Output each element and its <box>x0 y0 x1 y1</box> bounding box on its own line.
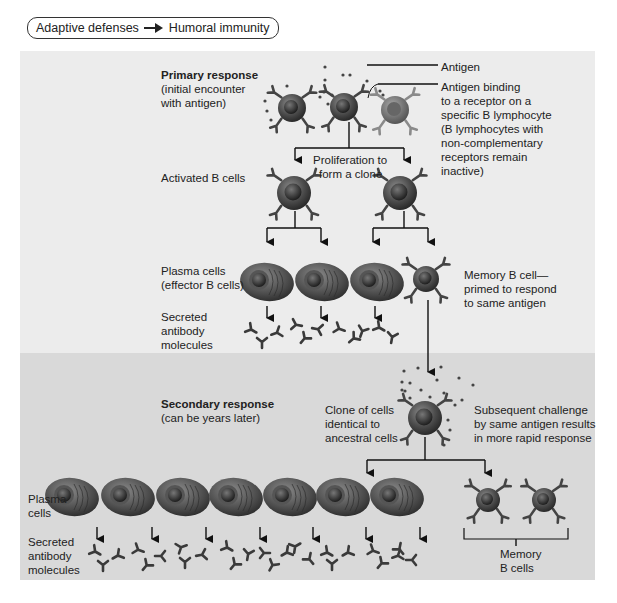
receptor <box>376 203 391 219</box>
binding-label-3: specific B lymphocyte <box>441 108 552 122</box>
receptor <box>351 115 366 131</box>
receptor <box>465 480 481 495</box>
antibody-molecule <box>406 555 416 565</box>
activated-b-cells-label: Activated B cells <box>161 171 245 185</box>
secondary-response-title: Secondary response <box>161 397 274 411</box>
primary-response-title: Primary response <box>161 68 258 82</box>
antibody-molecule <box>303 553 317 567</box>
plasma-cell <box>238 259 297 304</box>
secondary-plasma-label-1: Plasma <box>28 492 66 506</box>
antigen-dot <box>323 78 326 81</box>
receptor <box>524 507 539 523</box>
antigen-dot <box>326 102 329 105</box>
antigen-dot <box>378 89 381 92</box>
antibody-molecule <box>346 332 360 346</box>
receptor <box>270 203 285 219</box>
cell-nucleus <box>336 99 350 113</box>
antigen-dot <box>402 369 405 372</box>
receptor <box>373 118 388 134</box>
antibody-molecule <box>327 560 337 570</box>
antigen-dot <box>457 376 460 379</box>
secondary-plasma-label-2: cells <box>28 506 51 520</box>
antigen-dot <box>446 418 449 421</box>
cell-nucleus <box>419 272 432 285</box>
binding-label-7: inactive) <box>441 164 484 178</box>
antibody-molecule <box>297 332 311 346</box>
antibody-molecule <box>180 558 190 568</box>
antibody-molecule <box>221 541 235 555</box>
receptor <box>270 116 285 132</box>
cell-nucleus <box>416 409 433 426</box>
receptor <box>435 394 451 409</box>
antigen-dot <box>453 403 456 406</box>
binding-label-5: non-complementary <box>441 136 543 150</box>
receptor <box>303 203 318 219</box>
antibody-molecule <box>373 321 387 335</box>
secondary-b-cell <box>398 394 451 445</box>
cell-nucleus <box>387 102 401 116</box>
receptor <box>398 394 414 409</box>
cell-nucleus <box>284 100 298 114</box>
receptor <box>299 116 314 132</box>
antigen-dot <box>442 391 445 394</box>
antigen-dot <box>400 380 403 383</box>
antigen-dot <box>416 366 419 369</box>
b-lymphocyte <box>268 86 317 132</box>
receptor <box>352 85 368 100</box>
binding-label-1: Antigen binding <box>441 80 520 94</box>
proliferation-label-2: form a clone <box>319 167 382 181</box>
antibody-molecule <box>195 549 207 561</box>
clone-label-2: identical to <box>325 417 380 431</box>
antigen-dot <box>408 396 411 399</box>
cell-nucleus <box>382 488 396 502</box>
cell-nucleus <box>362 273 376 287</box>
receptor <box>402 258 418 273</box>
antibody-molecule <box>356 326 369 339</box>
plasma-cell <box>293 259 352 304</box>
antibody-molecule <box>245 323 259 337</box>
cell-nucleus <box>285 184 302 201</box>
antibody-label-2: antibody <box>161 324 204 338</box>
plasma-cells-label-1: Plasma cells <box>161 264 226 278</box>
antibody-molecule <box>289 539 303 553</box>
secondary-plasma-cell <box>261 474 320 519</box>
antibody-molecule <box>340 546 354 560</box>
challenge-label-3: in more rapid response <box>474 431 592 445</box>
antigen-dot <box>318 95 321 98</box>
b-lymphocyte-inactive <box>371 88 420 134</box>
cell-nucleus <box>537 493 549 505</box>
secondary-plasma-cell <box>99 474 158 519</box>
antibody-molecule <box>270 327 283 340</box>
antigen-dot <box>285 84 288 87</box>
antibody-molecule <box>291 319 303 331</box>
plasma-cell <box>348 259 407 304</box>
memory-b-cells-label-2: B cells <box>500 561 534 575</box>
memory-b-cell-label-3: to same antigen <box>464 296 546 310</box>
receptor <box>468 507 483 523</box>
antigen-dot <box>348 73 351 76</box>
antigen-dot <box>365 79 368 82</box>
antibody-molecule <box>227 558 241 572</box>
antibody-molecule <box>334 323 347 336</box>
secondary-plasma-cell <box>207 474 266 519</box>
binding-label-6: receptors remain <box>441 150 527 164</box>
cell-nucleus <box>275 488 289 502</box>
cell-nucleus <box>221 488 235 502</box>
receptor <box>494 507 509 523</box>
receptor <box>402 118 417 134</box>
antibody-molecule <box>386 332 398 344</box>
antibody-molecule <box>176 541 189 554</box>
antibody-molecule <box>110 549 124 563</box>
cell-nucleus <box>328 488 342 502</box>
receptor <box>551 480 567 495</box>
proliferation-label-1: Proliferation to <box>313 153 387 167</box>
antigen-dot <box>448 428 451 431</box>
receptor <box>322 115 337 131</box>
antibody-molecule <box>133 544 146 557</box>
binding-label-4: (B lymphocytes with <box>441 122 543 136</box>
receptor <box>300 86 316 101</box>
antigen-dot <box>439 365 442 368</box>
secondary-plasma-cell <box>368 474 427 519</box>
antibody-label-3: molecules <box>161 338 213 352</box>
antigen-label: Antigen <box>441 60 480 74</box>
